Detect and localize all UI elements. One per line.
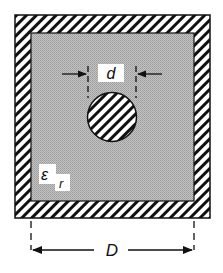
epsilon-symbol: ε bbox=[41, 166, 49, 183]
inner-diameter-label: d bbox=[107, 65, 117, 82]
epsilon-subscript: r bbox=[59, 176, 64, 191]
outer-width-dimension: D bbox=[31, 221, 194, 260]
outer-width-label: D bbox=[106, 241, 118, 260]
inner-conductor bbox=[88, 93, 137, 142]
coax-diagram: d ε r D bbox=[0, 0, 223, 273]
